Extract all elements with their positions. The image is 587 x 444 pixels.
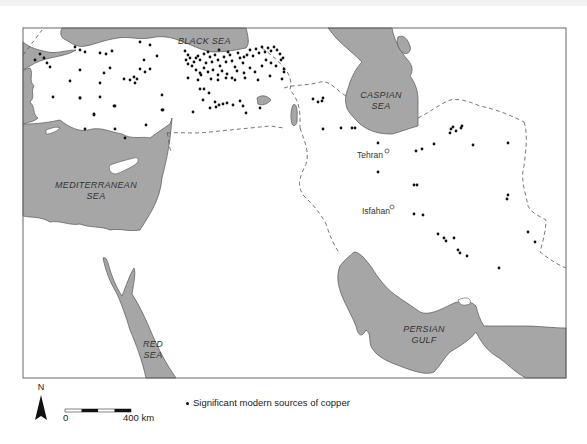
copper-source-dot bbox=[507, 194, 510, 197]
copper-source-dot bbox=[377, 171, 380, 174]
copper-source-dot bbox=[413, 213, 416, 216]
copper-source-dot bbox=[124, 137, 127, 140]
copper-source-dot bbox=[113, 105, 116, 108]
copper-source-dot bbox=[144, 71, 147, 74]
copper-source-dot bbox=[351, 127, 354, 130]
copper-source-dot bbox=[275, 65, 278, 68]
copper-source-dot bbox=[34, 59, 37, 62]
copper-source-dot bbox=[273, 46, 276, 49]
copper-source-dot bbox=[276, 49, 279, 52]
copper-source-dot bbox=[243, 56, 246, 59]
copper-source-dot bbox=[257, 79, 260, 82]
copper-source-dot bbox=[195, 57, 198, 60]
copper-source-dot bbox=[202, 99, 205, 102]
copper-source-dot bbox=[199, 88, 202, 91]
copper-source-dot bbox=[258, 52, 261, 55]
copper-source-dot bbox=[203, 67, 206, 70]
copper-source-dot bbox=[416, 184, 419, 187]
copper-source-dot bbox=[421, 148, 424, 151]
copper-source-dot bbox=[192, 111, 195, 114]
copper-source-dot bbox=[52, 96, 55, 99]
copper-source-dot bbox=[203, 53, 206, 56]
copper-source-dot bbox=[99, 52, 102, 55]
copper-source-dot bbox=[283, 68, 286, 71]
copper-source-dot bbox=[145, 124, 148, 127]
scale-end-label: 400 km bbox=[123, 412, 154, 423]
copper-source-dot bbox=[280, 59, 283, 62]
copper-source-dot bbox=[455, 130, 458, 133]
copper-source-dot bbox=[43, 57, 46, 60]
copper-source-dot bbox=[69, 80, 72, 83]
copper-source-dot bbox=[234, 66, 237, 69]
copper-source-dot bbox=[161, 109, 164, 112]
copper-source-dot bbox=[136, 78, 139, 81]
copper-source-dot bbox=[74, 46, 77, 49]
copper-source-dot bbox=[203, 88, 206, 91]
copper-source-dot bbox=[457, 249, 460, 252]
copper-source-dot bbox=[205, 62, 208, 65]
copper-source-dot bbox=[123, 78, 126, 81]
copper-source-dot bbox=[227, 51, 230, 54]
copper-source-dot bbox=[415, 150, 418, 153]
copper-source-dot bbox=[46, 62, 49, 65]
legend-text: Significant modern sources of copper bbox=[193, 397, 350, 408]
copper-source-dot bbox=[433, 143, 436, 146]
copper-source-dot bbox=[534, 241, 537, 244]
copper-source-dot bbox=[39, 53, 42, 56]
copper-source-dot bbox=[185, 59, 188, 62]
copper-source-dot bbox=[413, 184, 416, 187]
copper-source-dot bbox=[243, 72, 246, 75]
copper-source-dot bbox=[139, 41, 142, 44]
copper-source-dot bbox=[184, 50, 187, 53]
copper-source-dot bbox=[507, 142, 510, 145]
black-sea-label: BLACK SEA bbox=[178, 36, 231, 46]
copper-source-dot bbox=[249, 67, 252, 70]
copper-source-dot bbox=[377, 142, 380, 145]
copper-source-dot bbox=[84, 51, 87, 54]
copper-source-dot bbox=[231, 77, 234, 80]
copper-source-dot bbox=[461, 125, 464, 128]
copper-source-dot bbox=[200, 74, 203, 77]
copper-source-dot bbox=[236, 70, 239, 73]
lake-urmia-shape bbox=[291, 104, 297, 125]
copper-source-dot bbox=[340, 127, 343, 130]
copper-source-dot bbox=[249, 49, 252, 52]
copper-source-dot bbox=[139, 68, 142, 71]
copper-source-dot bbox=[322, 128, 325, 131]
scale-bar bbox=[65, 409, 131, 412]
red-sea-label: REDSEA bbox=[143, 339, 163, 360]
copper-source-dot bbox=[422, 214, 425, 217]
copper-source-dot bbox=[239, 100, 242, 103]
copper-source-dot bbox=[93, 113, 96, 116]
copper-dot-icon bbox=[186, 402, 189, 405]
isfahan-label: Isfahan bbox=[362, 206, 390, 216]
copper-source-dot bbox=[217, 79, 220, 82]
copper-source-dot bbox=[219, 65, 222, 68]
copper-source-dot bbox=[244, 77, 247, 80]
copper-source-dot bbox=[193, 61, 196, 64]
copper-source-dot bbox=[506, 198, 509, 201]
copper-source-dot bbox=[246, 54, 249, 57]
tehran-label: Tehran bbox=[357, 150, 383, 160]
copper-source-dot bbox=[134, 82, 137, 85]
copper-source-dot bbox=[317, 101, 320, 104]
copper-source-dot bbox=[207, 51, 210, 54]
copper-source-dot bbox=[259, 107, 262, 110]
copper-source-dot bbox=[466, 255, 469, 258]
copper-source-dot bbox=[211, 61, 214, 64]
copper-source-dot bbox=[452, 126, 455, 129]
copper-source-dot bbox=[312, 98, 315, 101]
copper-source-dot bbox=[114, 128, 117, 131]
isfahan-capital-icon bbox=[390, 205, 394, 209]
copper-source-dot bbox=[498, 267, 501, 270]
copper-source-dot bbox=[99, 96, 102, 99]
copper-source-dot bbox=[84, 128, 87, 131]
copper-source-dot bbox=[212, 69, 215, 72]
copper-source-dot bbox=[187, 63, 190, 66]
copper-source-dot bbox=[265, 59, 268, 62]
copper-source-dot bbox=[79, 97, 82, 100]
copper-source-dot bbox=[232, 104, 235, 107]
copper-source-dot bbox=[242, 62, 245, 65]
copper-source-dot bbox=[225, 61, 228, 64]
copper-source-dot bbox=[234, 79, 237, 82]
